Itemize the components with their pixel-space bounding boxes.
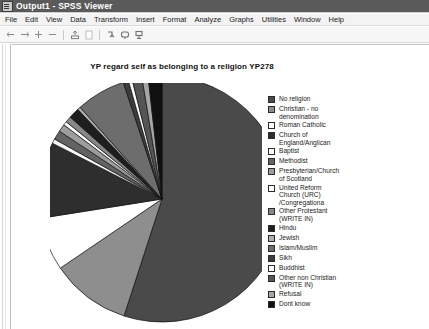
spss-output-icon xyxy=(2,1,13,12)
legend-label: Other non Christian (WRITE IN) xyxy=(279,274,336,289)
legend-label: Christian - no denomination xyxy=(279,105,319,120)
pie-chart-svg xyxy=(50,83,262,329)
menu-item-help[interactable]: Help xyxy=(325,14,348,26)
menu-item-edit[interactable]: Edit xyxy=(21,14,42,26)
toolbar-separator-2 xyxy=(99,30,100,40)
legend-label: United Reform Church (URC) /Congregation… xyxy=(279,184,324,207)
legend-swatch-icon xyxy=(268,291,275,298)
insert-heading-icon[interactable] xyxy=(105,29,116,40)
legend-item[interactable]: Sikh xyxy=(268,254,388,263)
legend-swatch-icon xyxy=(268,301,275,308)
spss-viewer-window: Output1 - SPSS Viewer File Edit View Dat… xyxy=(0,0,429,329)
legend-label: Other Protestant (WRITE IN) xyxy=(279,207,327,222)
output-content-pane[interactable]: YP regard self as belonging to a religio… xyxy=(12,44,429,329)
outline-navigation-pane[interactable] xyxy=(0,44,11,329)
chart-title: YP regard self as belonging to a religio… xyxy=(12,62,352,71)
legend-label: Buddhist xyxy=(279,264,305,272)
legend-item[interactable]: Other non Christian (WRITE IN) xyxy=(268,274,388,289)
demote-minus-icon[interactable] xyxy=(47,29,58,40)
menu-item-analyze[interactable]: Analyze xyxy=(190,14,225,26)
legend-label: Presbyterian/Church of Scotland xyxy=(279,167,339,182)
export-icon[interactable] xyxy=(69,29,80,40)
legend-item[interactable]: Jewish xyxy=(268,234,388,243)
legend-label: Sikh xyxy=(279,254,292,262)
legend-item[interactable]: Baptist xyxy=(268,147,388,156)
toolbar xyxy=(0,27,429,43)
legend-item[interactable]: Roman Catholic xyxy=(268,121,388,130)
legend-label: Church of England/Anglican xyxy=(279,131,330,146)
legend-swatch-icon xyxy=(268,122,275,129)
legend-swatch-icon xyxy=(268,185,275,192)
legend-item[interactable]: Hindu xyxy=(268,224,388,233)
legend-label: Methodist xyxy=(279,157,308,165)
pie-chart[interactable] xyxy=(50,83,262,329)
forward-arrow-icon[interactable] xyxy=(19,29,30,40)
toolbar-separator xyxy=(63,30,64,40)
legend-swatch-icon xyxy=(268,148,275,155)
legend-swatch-icon xyxy=(268,106,275,113)
legend-label: Dont know xyxy=(279,300,310,308)
legend-item[interactable]: United Reform Church (URC) /Congregation… xyxy=(268,184,388,207)
chart-legend: No religionChristian - no denominationRo… xyxy=(268,95,388,310)
menu-item-utilities[interactable]: Utilities xyxy=(258,14,290,26)
legend-label: Islam/Muslim xyxy=(279,244,317,252)
menu-item-format[interactable]: Format xyxy=(159,14,191,26)
window-title: Output1 - SPSS Viewer xyxy=(16,0,113,13)
menu-item-data[interactable]: Data xyxy=(66,14,90,26)
legend-label: Hindu xyxy=(279,224,296,232)
legend-label: No religion xyxy=(279,95,311,103)
legend-item[interactable]: Christian - no denomination xyxy=(268,105,388,120)
legend-item[interactable]: Methodist xyxy=(268,157,388,166)
legend-item[interactable]: Dont know xyxy=(268,300,388,309)
legend-item[interactable]: Other Protestant (WRITE IN) xyxy=(268,207,388,222)
menu-item-view[interactable]: View xyxy=(42,14,66,26)
menu-bar: File Edit View Data Transform Insert For… xyxy=(0,14,429,26)
legend-swatch-icon xyxy=(268,275,275,282)
legend-label: Baptist xyxy=(279,147,299,155)
menu-item-window[interactable]: Window xyxy=(290,14,325,26)
menu-item-insert[interactable]: Insert xyxy=(132,14,159,26)
legend-label: Refusal xyxy=(279,290,301,298)
pane-top-divider xyxy=(12,44,429,45)
insert-text-icon[interactable] xyxy=(133,29,144,40)
legend-swatch-icon xyxy=(268,225,275,232)
legend-label: Roman Catholic xyxy=(279,121,326,129)
legend-item[interactable]: Islam/Muslim xyxy=(268,244,388,253)
legend-swatch-icon xyxy=(268,208,275,215)
promote-plus-icon[interactable] xyxy=(33,29,44,40)
legend-item[interactable]: Refusal xyxy=(268,290,388,299)
page-icon[interactable] xyxy=(83,29,94,40)
menu-item-graphs[interactable]: Graphs xyxy=(225,14,258,26)
legend-label: Jewish xyxy=(279,234,299,242)
legend-item[interactable]: Church of England/Anglican xyxy=(268,131,388,146)
legend-swatch-icon xyxy=(268,96,275,103)
menu-item-transform[interactable]: Transform xyxy=(90,14,132,26)
legend-swatch-icon xyxy=(268,158,275,165)
legend-item[interactable]: Presbyterian/Church of Scotland xyxy=(268,167,388,182)
legend-swatch-icon xyxy=(268,132,275,139)
insert-title-icon[interactable] xyxy=(119,29,130,40)
title-bar: Output1 - SPSS Viewer xyxy=(0,0,429,13)
legend-swatch-icon xyxy=(268,235,275,242)
menu-item-file[interactable]: File xyxy=(0,14,21,26)
legend-item[interactable]: Buddhist xyxy=(268,264,388,273)
legend-swatch-icon xyxy=(268,255,275,262)
legend-swatch-icon xyxy=(268,265,275,272)
legend-item[interactable]: No religion xyxy=(268,95,388,104)
back-arrow-icon[interactable] xyxy=(5,29,16,40)
legend-swatch-icon xyxy=(268,245,275,252)
legend-swatch-icon xyxy=(268,168,275,175)
